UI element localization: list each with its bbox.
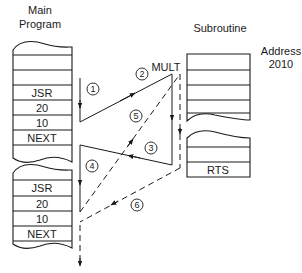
svg-text:4: 4 — [89, 161, 94, 171]
cell-next-2: NEXT — [27, 228, 57, 240]
subroutine-block-top — [187, 54, 250, 121]
step-6-marker: 6 — [131, 199, 143, 211]
main-program-title: Main — [28, 4, 52, 16]
svg-text:2: 2 — [139, 69, 144, 79]
subroutine-title: Subroutine — [193, 22, 246, 34]
cell-next-1: NEXT — [27, 132, 57, 144]
cell-rts: RTS — [207, 164, 229, 176]
step-1-marker: 1 — [87, 83, 99, 95]
address-label: Address — [261, 45, 302, 57]
cell-20-2: 20 — [36, 198, 48, 210]
cell-jsr-1: JSR — [32, 87, 53, 99]
step-3-marker: 3 — [145, 142, 157, 154]
step-2-marker: 2 — [136, 68, 148, 80]
cell-10-2: 10 — [36, 213, 48, 225]
svg-text:1: 1 — [90, 84, 95, 94]
step-5-marker: 5 — [130, 110, 142, 122]
cell-10-1: 10 — [36, 117, 48, 129]
svg-text:3: 3 — [148, 143, 153, 153]
cell-jsr-2: JSR — [32, 182, 53, 194]
cell-20-1: 20 — [36, 102, 48, 114]
jsr-rts-diagram: Main Program Subroutine Address 2010 JSR… — [0, 0, 302, 273]
address-value: 2010 — [269, 58, 293, 70]
mult-label: MULT — [151, 61, 180, 73]
svg-text:5: 5 — [133, 111, 138, 121]
step-4-marker: 4 — [86, 160, 98, 172]
main-program-title-2: Program — [19, 18, 61, 30]
svg-text:6: 6 — [134, 200, 139, 210]
